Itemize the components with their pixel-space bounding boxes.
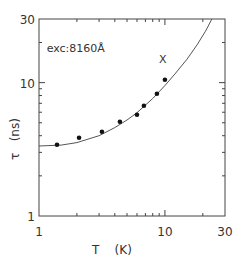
annotation-x-marker: X: [159, 53, 167, 66]
data-point-3: [118, 119, 123, 124]
data-point-6: [155, 91, 160, 96]
data-point-1: [77, 135, 82, 140]
data-point-7: [163, 78, 168, 83]
data-point-0: [55, 142, 60, 147]
x-tick-label-10: 10: [157, 225, 172, 239]
x-tick-label-30: 30: [217, 225, 232, 239]
y-axis-label: τ (ns): [8, 118, 22, 160]
data-points: [55, 78, 168, 148]
chart: 1 10 30 1 10 30 T (K) τ (ns) exc:8160Å X: [0, 0, 242, 260]
y-tick-label-30: 30: [20, 13, 35, 27]
y-tick-label-1: 1: [27, 210, 35, 224]
data-point-5: [142, 103, 147, 108]
x-tick-label-1: 1: [35, 225, 43, 239]
x-axis-label: T (K): [91, 243, 132, 257]
data-point-4: [135, 112, 140, 117]
data-point-2: [100, 129, 105, 134]
fit-curve: [39, 19, 212, 146]
y-ticks: [39, 42, 225, 175]
y-tick-label-10: 10: [20, 77, 35, 91]
annotation-excitation: exc:8160Å: [47, 42, 106, 55]
